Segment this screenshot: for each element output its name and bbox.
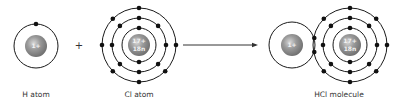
electron (137, 70, 142, 75)
electron (156, 24, 161, 29)
cl-nucleus-charge: 17+ (132, 37, 145, 44)
electron (137, 6, 142, 11)
electron (137, 80, 142, 85)
electron (163, 69, 168, 74)
hcl-cl-nucleus-neutrons: 18n (344, 45, 357, 52)
hcl-cl-nucleus-charge: 17+ (343, 37, 356, 44)
hcl-formation-diagram: 1+ + 17+ 18n (0, 0, 401, 106)
electron (111, 17, 116, 22)
electron (100, 43, 105, 48)
hcl-molecule-label: HCl molecule (314, 90, 364, 99)
electron (374, 69, 379, 74)
cl-atom: 17+ 18n (100, 6, 179, 85)
electron (174, 43, 179, 48)
h-atom-label: H atom (22, 90, 49, 99)
electron (367, 24, 372, 29)
electron (156, 62, 161, 67)
electron (137, 60, 142, 65)
cl-atom-label: Cl atom (124, 90, 153, 99)
hcl-h-nucleus-charge: 1+ (287, 41, 296, 48)
cl-nucleus-neutrons: 18n (133, 45, 146, 52)
electron (34, 22, 39, 27)
electron (348, 70, 353, 75)
electron (348, 16, 353, 21)
electron (367, 62, 372, 67)
electron (375, 43, 380, 48)
h-nucleus-charge: 1+ (31, 42, 40, 49)
electron (329, 62, 334, 67)
electron (348, 6, 353, 11)
shared-electron (312, 36, 317, 41)
electron (137, 26, 142, 31)
electron (118, 62, 123, 67)
electron (137, 16, 142, 21)
electron (348, 60, 353, 65)
plus-sign: + (75, 40, 83, 51)
electron (321, 43, 326, 48)
electron (110, 43, 115, 48)
electron (374, 17, 379, 22)
hcl-molecule: 1+ 17+ 18n (269, 6, 389, 85)
shared-electron (312, 50, 317, 55)
electron (322, 17, 327, 22)
electron (385, 43, 390, 48)
electron (348, 80, 353, 85)
reaction-arrow (183, 43, 258, 47)
electron (118, 24, 123, 29)
arrow-head-icon (252, 43, 258, 47)
electron (329, 24, 334, 29)
electron (322, 69, 327, 74)
h-atom: 1+ (14, 22, 58, 68)
electron (111, 69, 116, 74)
electron (348, 26, 353, 31)
electron (164, 43, 169, 48)
